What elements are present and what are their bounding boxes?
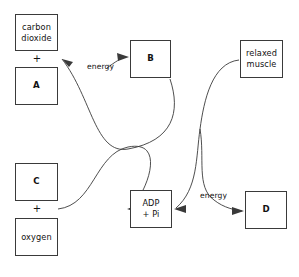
node-c[interactable]: C xyxy=(15,163,58,201)
node-adp-pi[interactable]: ADP + Pi xyxy=(130,190,172,228)
node-oxygen[interactable]: oxygen xyxy=(15,218,58,256)
node-b-label: B xyxy=(147,53,154,64)
arrowhead-to-b xyxy=(117,53,129,61)
node-d-label: D xyxy=(262,204,269,215)
node-carbon-dioxide-label: carbon dioxide xyxy=(21,22,51,44)
node-carbon-dioxide[interactable]: carbon dioxide xyxy=(15,14,58,51)
node-adp-pi-label: ADP + Pi xyxy=(142,198,159,220)
plus-sign-bottom: + xyxy=(27,204,47,214)
node-b[interactable]: B xyxy=(130,40,171,78)
node-a-label: A xyxy=(33,80,40,91)
energy-label-bottom: energy xyxy=(200,191,227,200)
biology-cycle-diagram: carbon dioxide + A C + oxygen B ADP + Pi… xyxy=(0,0,299,277)
node-relaxed-muscle[interactable]: relaxed muscle xyxy=(240,40,283,78)
arrowhead-to-products xyxy=(62,59,73,67)
node-oxygen-label: oxygen xyxy=(21,232,51,243)
plus-sign-top: + xyxy=(27,54,47,64)
arrowhead-to-adp-right xyxy=(174,205,186,213)
node-a[interactable]: A xyxy=(15,67,58,105)
energy-label-top: energy xyxy=(87,62,114,71)
node-c-label: C xyxy=(33,176,39,187)
arrowhead-to-d xyxy=(232,207,244,215)
node-d[interactable]: D xyxy=(245,191,287,229)
node-relaxed-muscle-label: relaxed muscle xyxy=(246,48,277,70)
edge-adp-to-d xyxy=(200,129,244,215)
